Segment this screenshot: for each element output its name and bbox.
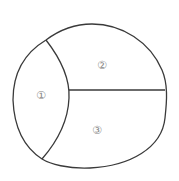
diagram-canvas <box>0 0 179 181</box>
region-2-label: ② <box>97 60 107 71</box>
region-1-label: ① <box>36 90 46 101</box>
region-3-label: ③ <box>92 125 102 136</box>
